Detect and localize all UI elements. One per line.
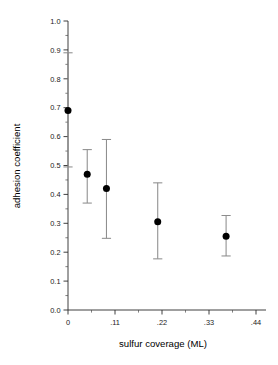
- x-tick-label: 0: [66, 318, 70, 327]
- x-axis-tick-labels: 0.11.22.33.44: [66, 318, 261, 327]
- scatter-plot: 0.00.10.20.30.40.50.60.70.80.91.0 0.11.2…: [0, 0, 278, 365]
- data-point-marker: [84, 171, 91, 178]
- y-tick-label: 0.6: [50, 132, 60, 141]
- x-axis: 0.11.22.33.44: [66, 310, 266, 327]
- chart-figure: 0.00.10.20.30.40.50.60.70.80.91.0 0.11.2…: [0, 0, 278, 365]
- y-tick-label: 0.0: [50, 306, 60, 315]
- y-tick-label: 0.1: [50, 277, 60, 286]
- x-tick-label: .44: [251, 318, 261, 327]
- data-point-group: [83, 150, 92, 203]
- x-axis-title: sulfur coverage (ML): [119, 338, 207, 349]
- y-tick-label: 0.7: [50, 103, 60, 112]
- data-point-marker: [103, 185, 110, 192]
- y-axis: 0.00.10.20.30.40.50.60.70.80.91.0: [50, 17, 68, 315]
- y-axis-tick-labels: 0.00.10.20.30.40.50.60.70.80.91.0: [50, 17, 60, 315]
- y-tick-label: 0.8: [50, 75, 60, 84]
- y-tick-label: 0.2: [50, 248, 60, 257]
- data-point-group: [102, 139, 111, 238]
- y-tick-label: 1.0: [50, 17, 60, 26]
- y-tick-label: 0.5: [50, 161, 60, 170]
- data-point-marker: [154, 218, 161, 225]
- y-tick-label: 0.3: [50, 219, 60, 228]
- data-point-marker: [65, 107, 72, 114]
- y-tick-label: 0.4: [50, 190, 60, 199]
- x-tick-label: .11: [110, 318, 120, 327]
- x-tick-label: .33: [204, 318, 214, 327]
- data-point-group: [63, 53, 72, 167]
- y-axis-title: adhesion coefficient: [11, 123, 22, 208]
- data-point-group: [221, 215, 230, 255]
- x-tick-label: .22: [157, 318, 167, 327]
- data-point-marker: [223, 233, 230, 240]
- data-series: [63, 53, 230, 259]
- x-axis-major-ticks: [68, 310, 256, 315]
- y-tick-label: 0.9: [50, 46, 60, 55]
- data-point-group: [153, 183, 162, 259]
